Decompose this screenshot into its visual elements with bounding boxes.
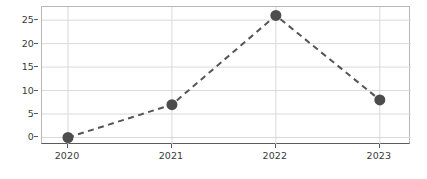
y-axis-tick-mark xyxy=(34,113,38,114)
x-axis-tick-mark xyxy=(67,144,68,148)
x-axis-tick-label: 2023 xyxy=(367,150,392,161)
y-axis-tick-mark xyxy=(34,136,38,137)
x-axis-tick-labels: 2020202120222023 xyxy=(41,150,410,164)
x-axis-tick-mark xyxy=(171,144,172,148)
y-axis-tick-mark xyxy=(34,43,38,44)
plot-area xyxy=(41,6,410,144)
x-axis-tick-label: 2022 xyxy=(263,150,288,161)
data-point-marker[interactable] xyxy=(374,94,385,105)
x-axis-tick-label: 2021 xyxy=(159,150,184,161)
y-axis-tick-labels: 2520151050 xyxy=(0,6,34,144)
x-axis-tick-mark xyxy=(275,144,276,148)
y-axis-tick-label: 20 xyxy=(22,37,34,48)
y-axis-tick-label: 25 xyxy=(22,14,34,25)
data-point-marker[interactable] xyxy=(166,99,177,110)
y-axis-tick-mark xyxy=(34,19,38,20)
x-axis-tick-mark xyxy=(379,144,380,148)
x-axis-tick-marks xyxy=(41,144,410,148)
series-line xyxy=(68,15,380,137)
x-axis-tick-label: 2020 xyxy=(55,150,80,161)
line-series xyxy=(42,7,411,145)
y-axis-tick-mark xyxy=(34,90,38,91)
y-axis-tick-label: 15 xyxy=(22,61,34,72)
chart-figure: 2520151050 2020202120222023 xyxy=(0,0,427,179)
data-point-marker[interactable] xyxy=(270,10,281,21)
y-axis-tick-label: 10 xyxy=(22,84,34,95)
data-point-marker[interactable] xyxy=(62,132,73,143)
y-axis-tick-mark xyxy=(34,66,38,67)
